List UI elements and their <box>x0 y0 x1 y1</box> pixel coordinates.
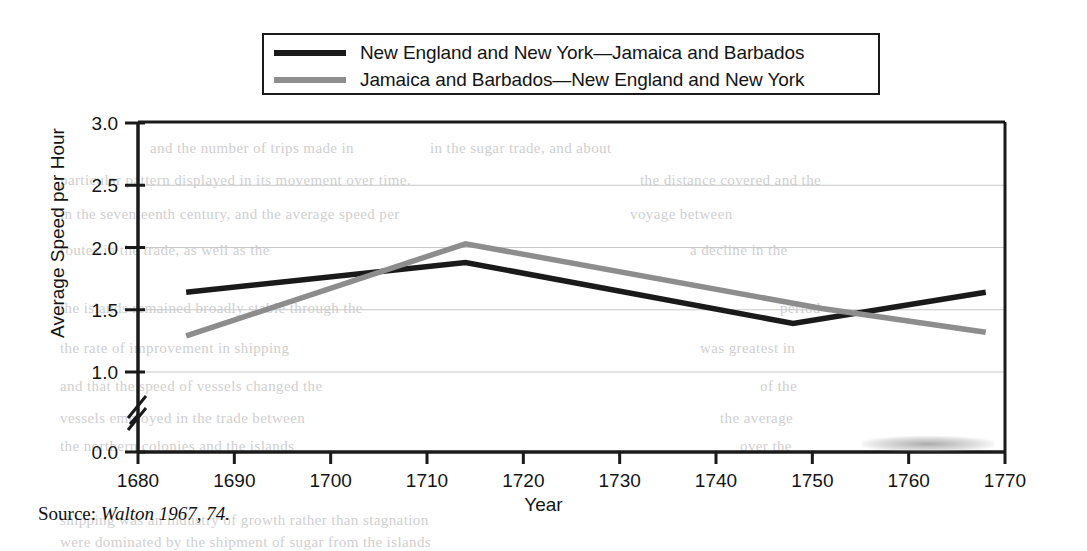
y-tick-label: 1.5 <box>92 300 118 321</box>
plot-area: 0.01.01.52.02.53.0 168016901700171017201… <box>0 0 1087 551</box>
x-axis-ticks: 1680169017001710172017301740175017601770 <box>117 452 1026 491</box>
y-tick-label: 3.0 <box>92 113 118 134</box>
y-tick-label: 0.0 <box>92 442 118 463</box>
source-note-citation: Walton 1967, 74. <box>101 503 230 524</box>
x-tick-label: 1760 <box>888 470 930 491</box>
source-note: Source: Walton 1967, 74. <box>38 503 230 525</box>
series-line-1 <box>186 244 986 336</box>
x-tick-label: 1690 <box>213 470 255 491</box>
x-tick-label: 1770 <box>984 470 1026 491</box>
x-tick-label: 1710 <box>406 470 448 491</box>
x-tick-label: 1750 <box>791 470 833 491</box>
x-tick-label: 1680 <box>117 470 159 491</box>
data-series-layer <box>186 244 986 336</box>
source-note-prefix: Source: <box>38 503 96 524</box>
figure-shipping-speed: and the number of trips made inin the su… <box>0 0 1087 551</box>
y-tick-label: 2.0 <box>92 238 118 259</box>
x-tick-label: 1700 <box>310 470 352 491</box>
x-tick-label: 1720 <box>502 470 544 491</box>
x-tick-label: 1730 <box>599 470 641 491</box>
y-tick-label: 1.0 <box>92 362 118 383</box>
y-tick-label: 2.5 <box>92 175 118 196</box>
x-tick-label: 1740 <box>695 470 737 491</box>
gridlines <box>138 185 1005 372</box>
